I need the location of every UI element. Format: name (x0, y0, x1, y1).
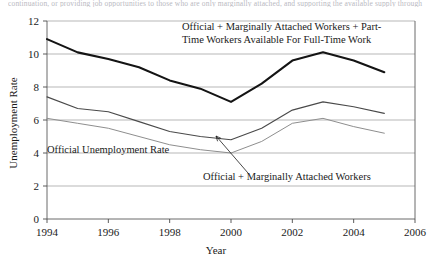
y-axis-ticks: 024681012 (28, 15, 47, 225)
official-rate-label-line-1: Official Unemployment Rate (47, 144, 170, 155)
x-tick-label-2006: 2006 (404, 226, 427, 238)
broad-u6-label-line-2: Time Workers Available For Full-Time Wor… (182, 34, 372, 45)
x-tick-label-2000: 2000 (220, 226, 243, 238)
annotations: Official + Marginally Attached Workers +… (47, 21, 382, 182)
official-plus-marginal-leader (216, 136, 248, 173)
x-tick-label-1998: 1998 (159, 226, 182, 238)
broad-u6-label-line-1: Official + Marginally Attached Workers +… (182, 21, 382, 32)
official-plus-marginal-label-line-1: Official + Marginally Attached Workers (203, 171, 371, 182)
gridlines (47, 21, 415, 186)
x-tick-label-1996: 1996 (97, 226, 120, 238)
x-tick-label-2002: 2002 (281, 226, 303, 238)
official-plus-marginal-label: Official + Marginally Attached Workers (203, 171, 371, 182)
x-tick-label-1994: 1994 (36, 226, 59, 238)
chart-figure: continuation, or providing job opportuni… (0, 0, 435, 267)
x-tick-label-2004: 2004 (343, 226, 366, 238)
official-rate-label: Official Unemployment Rate (47, 144, 170, 155)
y-tick-label-8: 8 (34, 81, 40, 93)
series-line-official-plus-marginal (47, 97, 384, 140)
annotation-leader-line (216, 136, 248, 173)
y-tick-label-2: 2 (34, 180, 40, 192)
x-axis-ticks: 1994199619982000200220042006 (36, 219, 427, 238)
y-axis-title: Unemployment Rate (7, 77, 19, 168)
y-tick-label-4: 4 (34, 147, 40, 159)
y-tick-label-12: 12 (28, 15, 39, 27)
y-tick-label-6: 6 (34, 114, 40, 126)
series-line-broad-u6 (47, 39, 384, 102)
y-tick-label-10: 10 (28, 48, 40, 60)
unemployment-rate-line-chart: 1994199619982000200220042006 024681012 O… (0, 0, 435, 267)
broad-u6-label: Official + Marginally Attached Workers +… (182, 21, 382, 45)
y-tick-label-0: 0 (34, 213, 40, 225)
x-axis-title: Year (206, 244, 227, 256)
